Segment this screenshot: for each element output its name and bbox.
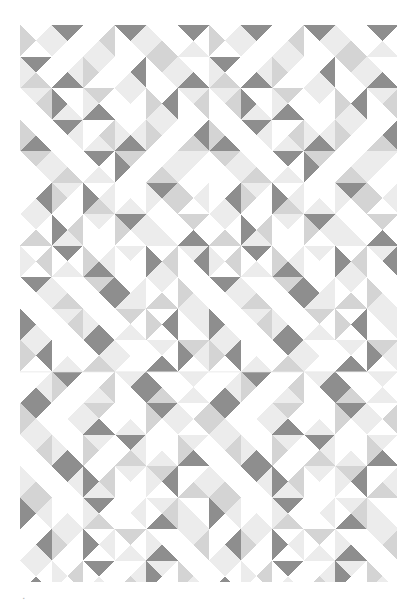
triangle-tile-pattern <box>20 25 397 582</box>
seam-line <box>20 372 397 373</box>
page-canvas: ▪ <box>0 0 417 607</box>
corner-mark: ▪ <box>23 596 25 601</box>
